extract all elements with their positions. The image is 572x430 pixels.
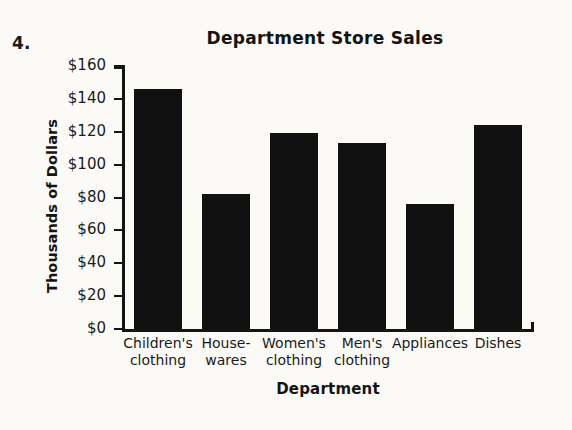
x-axis-title: Department	[124, 380, 532, 398]
x-axis-tick-label-line: Dishes	[459, 335, 537, 352]
y-axis-tick-label: $60	[48, 220, 106, 238]
x-axis-tick-label: House-wares	[187, 335, 265, 369]
bar	[474, 125, 522, 329]
x-axis-tick-label-line: Appliances	[391, 335, 469, 352]
x-axis-tick-label: Children'sclothing	[119, 335, 197, 369]
bar	[134, 89, 182, 329]
x-axis-tick-label-line: clothing	[255, 352, 333, 369]
x-axis-tick-label: Appliances	[391, 335, 469, 352]
y-axis-tick-label: $120	[48, 122, 106, 140]
x-axis-tick-label: Dishes	[459, 335, 537, 352]
chart-page: 4. Department Store Sales Thousands of D…	[0, 0, 572, 430]
x-axis-tick-label-line: Children's	[119, 335, 197, 352]
x-axis-tick-label-line: clothing	[119, 352, 197, 369]
bar	[406, 204, 454, 329]
bars-group	[124, 66, 532, 329]
chart-title: Department Store Sales	[110, 28, 540, 48]
x-axis-tick-label-line: Women's	[255, 335, 333, 352]
y-axis-tick-label: $0	[48, 319, 106, 337]
y-axis-tick-labels: $160$140$120$100$80$60$40$20$0	[48, 0, 106, 430]
problem-number: 4.	[12, 33, 31, 53]
y-axis-tick-label: $40	[48, 253, 106, 271]
y-axis-tick-label: $160	[48, 56, 106, 74]
x-axis-tick-label-line: Men's	[323, 335, 401, 352]
x-axis-tick-label-line: wares	[187, 352, 265, 369]
x-axis-line	[122, 329, 534, 332]
y-axis-tick-label: $20	[48, 286, 106, 304]
y-axis-tick-label: $80	[48, 188, 106, 206]
bar	[270, 133, 318, 329]
x-axis-tick-label: Men'sclothing	[323, 335, 401, 369]
y-axis-tick-label: $100	[48, 155, 106, 173]
y-axis-tick-label: $140	[48, 89, 106, 107]
bar	[338, 143, 386, 329]
bar	[202, 194, 250, 329]
x-axis-tick-label: Women'sclothing	[255, 335, 333, 369]
x-axis-tick-label-line: clothing	[323, 352, 401, 369]
x-axis-tick-label-line: House-	[187, 335, 265, 352]
